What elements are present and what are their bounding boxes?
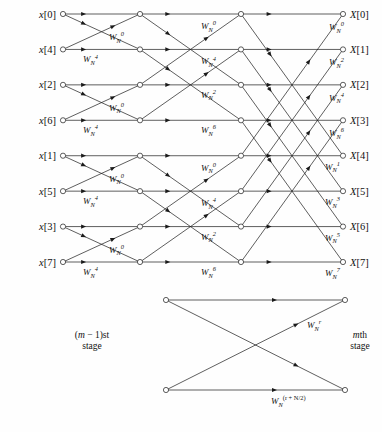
stage2-node-row-5 xyxy=(238,189,243,194)
input-node-row-3 xyxy=(60,118,65,123)
legend-node-bottom-left xyxy=(163,387,168,392)
twiddle-stage2-3: WN6 xyxy=(201,123,217,136)
twiddle-stage2-5: WN2 xyxy=(201,230,217,243)
arrow-s3-cross-down-1-5 xyxy=(267,87,272,92)
arrow-s3-cross-up-6-2 xyxy=(306,130,311,135)
output-node-row-2 xyxy=(340,82,345,87)
arrow-s2-cross-down-4-6 xyxy=(165,172,170,177)
stage1-node-row-3 xyxy=(137,118,142,123)
arrow-s3-straight-6 xyxy=(267,224,272,228)
twiddle-stage2-0: WN0 xyxy=(201,19,217,32)
twiddle-stage2-4: WN0 xyxy=(201,161,217,174)
input-label-7: x[7] xyxy=(38,257,56,268)
arrow-s3-cross-down-2-6 xyxy=(267,122,272,127)
arrow-s2-straight-2 xyxy=(165,83,170,87)
arrow-s3-straight-3 xyxy=(267,118,272,122)
stage1-node-row-7 xyxy=(137,259,142,264)
arrow-s2-straight-6 xyxy=(165,224,170,228)
arrow-s3-straight-4 xyxy=(267,154,272,158)
output-label-2: X[2] xyxy=(349,79,369,90)
legend-right-stage-line2: stage xyxy=(350,341,370,351)
stage1-node-row-6 xyxy=(137,224,142,229)
fft-flow-graph-figure: WN0WN4WN0WN4WN0WN4WN0WN4WN0WN2WN4WN6WN0W… xyxy=(0,0,382,432)
input-label-4: x[1] xyxy=(38,150,56,161)
stage1-node-row-5 xyxy=(137,189,142,194)
input-label-5: x[5] xyxy=(38,186,56,197)
legend-node-top-right xyxy=(342,297,347,302)
stage2-node-row-0 xyxy=(238,11,243,16)
stage2-node-row-4 xyxy=(238,153,243,158)
output-node-row-7 xyxy=(340,259,345,264)
input-node-row-6 xyxy=(60,224,65,229)
arrow-s1-straight-1 xyxy=(81,47,86,51)
input-node-row-7 xyxy=(60,259,65,264)
arrow-s3-straight-1 xyxy=(267,47,272,51)
output-label-0: X[0] xyxy=(349,9,369,20)
arrow-s2-straight-0 xyxy=(165,12,170,16)
twiddle-stage3-7: WN7 xyxy=(325,266,341,279)
legend-left-stage-line2: stage xyxy=(82,341,102,351)
arrow-s3-cross-down-3-7 xyxy=(267,158,272,163)
input-label-6: x[3] xyxy=(38,221,56,232)
stage1-node-row-1 xyxy=(137,47,142,52)
twiddle-stage3-3: WN3 xyxy=(325,195,340,208)
legend-right-stage-line1: mth xyxy=(353,330,368,340)
arrow-s3-straight-5 xyxy=(267,189,272,193)
input-label-3: x[6] xyxy=(38,115,56,126)
twiddle-stage1-1: WN4 xyxy=(83,53,99,66)
input-node-row-0 xyxy=(60,11,65,16)
input-node-row-4 xyxy=(60,153,65,158)
output-label-3: X[3] xyxy=(349,115,369,126)
arrow-s3-straight-2 xyxy=(267,83,272,87)
input-node-row-5 xyxy=(60,189,65,194)
arrow-s1-straight-4 xyxy=(81,154,86,158)
output-label-1: X[1] xyxy=(349,44,369,55)
twiddle-stage2-7: WN6 xyxy=(201,265,217,278)
stage2-node-row-3 xyxy=(238,118,243,123)
arrow-s1-straight-2 xyxy=(81,83,86,87)
output-label-5: X[5] xyxy=(349,186,369,197)
arrow-s3-cross-up-4-0 xyxy=(306,59,311,64)
legend-node-bottom-right xyxy=(342,387,347,392)
input-node-row-1 xyxy=(60,47,65,52)
arrow-s1-straight-7 xyxy=(81,260,86,264)
arrow-s2-cross-up-6-4 xyxy=(203,178,208,183)
legend-node-top-left xyxy=(163,297,168,302)
legend-left-stage-line1: (m − 1)st xyxy=(75,330,110,341)
output-label-7: X[7] xyxy=(349,257,369,268)
flow-graph-canvas: WN0WN4WN0WN4WN0WN4WN0WN4WN0WN2WN4WN6WN0W… xyxy=(0,0,382,432)
arrow-s2-straight-7 xyxy=(165,260,170,264)
stage2-node-row-6 xyxy=(238,224,243,229)
input-node-row-2 xyxy=(60,82,65,87)
legend-arrow-bottom-straight xyxy=(272,388,277,392)
twiddle-stage3-5: WN5 xyxy=(325,231,340,244)
twiddle-stage3-1: WN1 xyxy=(325,160,340,173)
arrow-s1-straight-0 xyxy=(81,12,86,16)
arrow-s2-straight-5 xyxy=(165,189,170,193)
output-node-row-1 xyxy=(340,47,345,52)
arrow-s1-straight-6 xyxy=(81,224,86,228)
twiddle-stage1-5: WN4 xyxy=(83,194,99,207)
input-label-0: x[0] xyxy=(38,9,56,20)
arrow-s3-cross-up-5-1 xyxy=(306,95,311,100)
stage1-node-row-2 xyxy=(137,82,142,87)
output-node-row-4 xyxy=(340,153,345,158)
stage1-node-row-4 xyxy=(137,153,142,158)
twiddle-stage1-7: WN4 xyxy=(83,265,99,278)
arrow-s3-cross-up-7-3 xyxy=(306,166,311,171)
arrow-s2-cross-up-3-1 xyxy=(203,72,208,77)
twiddle-stage1-3: WN4 xyxy=(83,123,99,136)
arrow-s1-straight-5 xyxy=(81,189,86,193)
arrow-s3-straight-7 xyxy=(267,260,272,264)
arrow-s2-straight-1 xyxy=(165,47,170,51)
arrow-s2-straight-3 xyxy=(165,118,170,122)
stage2-node-row-2 xyxy=(238,82,243,87)
legend-arrow-top-straight xyxy=(272,298,277,302)
arrow-s1-straight-3 xyxy=(81,118,86,122)
output-label-6: X[6] xyxy=(349,221,369,232)
arrow-s2-straight-4 xyxy=(165,154,170,158)
stage1-node-row-0 xyxy=(137,11,142,16)
stage2-node-row-7 xyxy=(238,259,243,264)
output-label-4: X[4] xyxy=(349,150,369,161)
arrow-s2-cross-up-2-0 xyxy=(203,37,208,42)
